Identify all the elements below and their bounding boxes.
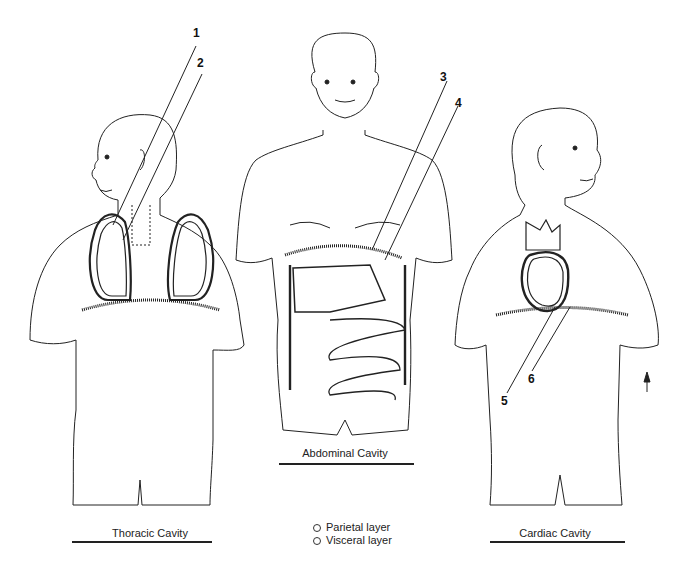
caption-underline — [279, 463, 414, 465]
caption-underline — [72, 541, 212, 543]
arrow-up-icon — [644, 372, 650, 392]
caption-abdominal-cavity: Abdominal Cavity — [285, 447, 405, 459]
legend-label: Visceral layer — [326, 534, 392, 547]
legend: Parietal layer Visceral layer — [313, 521, 392, 547]
callout-3: 3 — [440, 70, 447, 84]
radio-visceral-icon[interactable] — [313, 537, 321, 545]
callout-2: 2 — [197, 56, 204, 70]
callout-1: 1 — [193, 26, 200, 40]
cardiac-figure — [455, 108, 658, 505]
radio-parietal-icon[interactable] — [313, 524, 321, 532]
serous-membranes-diagram — [0, 0, 689, 572]
legend-label: Parietal layer — [326, 521, 390, 534]
caption-thoracic-cavity: Thoracic Cavity — [90, 527, 210, 539]
thoracic-figure — [30, 46, 244, 505]
caption-underline — [490, 541, 625, 543]
caption-cardiac-cavity: Cardiac Cavity — [500, 527, 610, 539]
callout-4: 4 — [455, 96, 462, 110]
callout-5: 5 — [501, 394, 508, 408]
abdominal-figure — [236, 33, 458, 435]
legend-item-parietal[interactable]: Parietal layer — [313, 521, 392, 534]
legend-item-visceral[interactable]: Visceral layer — [313, 534, 392, 547]
callout-6: 6 — [528, 372, 535, 386]
